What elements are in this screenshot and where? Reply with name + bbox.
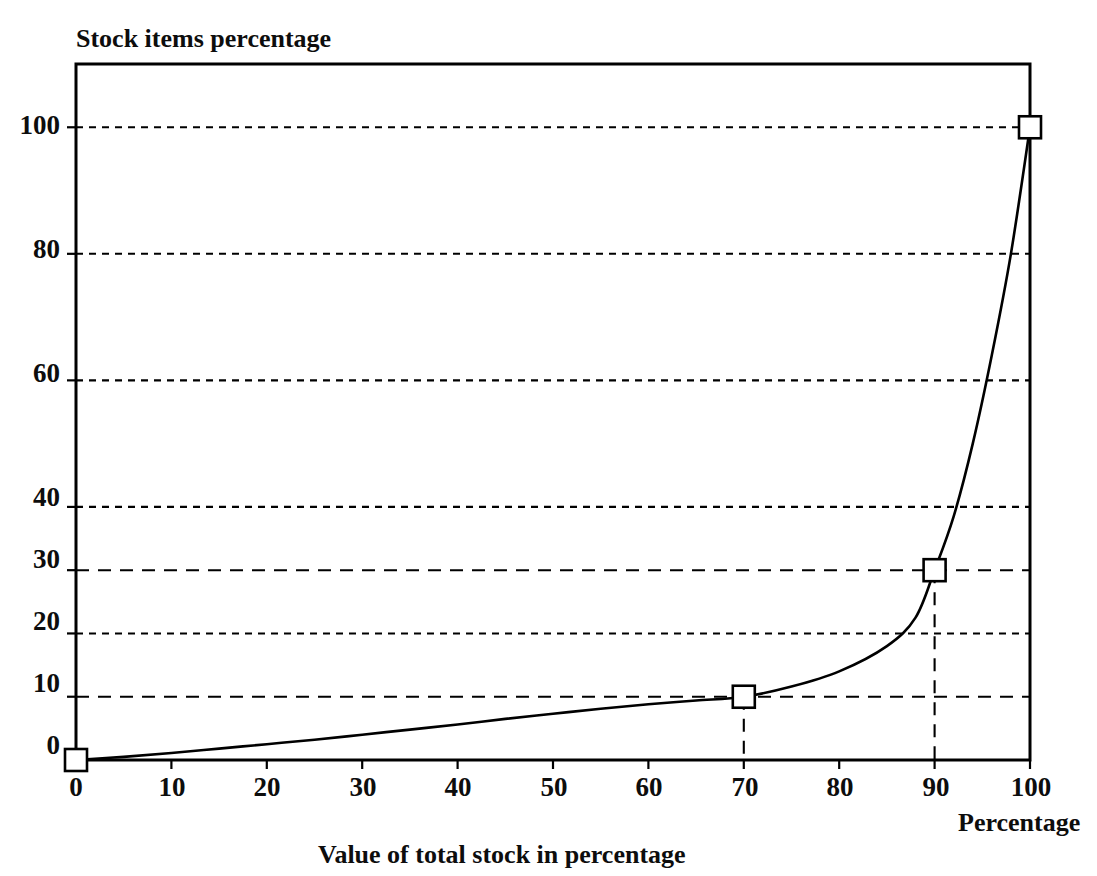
data-curve [76,127,1030,760]
data-point-marker-70-10[interactable] [733,686,755,708]
chart-canvas: Stock items percentage 100 80 60 40 30 2… [0,0,1097,876]
data-point-marker-0-0[interactable] [65,749,87,771]
data-point-marker-100-100[interactable] [1019,116,1041,138]
data-point-marker-90-30[interactable] [924,559,946,581]
plot-frame [76,64,1030,760]
plot-svg [0,0,1097,876]
